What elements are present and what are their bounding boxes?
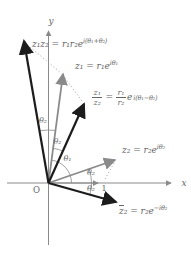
angle-theta2-mid-label: θ₂ <box>53 138 61 146</box>
z2-formula-exponent: iθ₂ <box>157 143 165 151</box>
z2-formula-base: z₂ = r₂e <box>122 145 157 155</box>
quotient-formula-label: z₁ z₂ = r₁ r₂ ei(θ₁−θ₂) <box>92 88 157 107</box>
quotient-e: e <box>127 93 132 102</box>
complex-plane-diagram: y x O 1 θ₂ θ₂ θ₁ θ₂ θ₂ z₁z₂ = r₁r₂ei(θ₁+… <box>0 0 191 261</box>
quotient-equals-sign: = <box>105 93 113 102</box>
unit-point-label: 1 <box>101 185 106 193</box>
dashed-line-z1-to-quotient <box>65 78 82 101</box>
z2-conjugate-base: ₂ = r₂e <box>124 206 154 216</box>
quotient-right-fraction: r₁ r₂ <box>116 88 126 107</box>
quotient-left-fraction: z₁ z₂ <box>92 88 102 107</box>
quotient-numerator-z1: z₁ <box>92 88 102 98</box>
quotient-denominator-r2: r₂ <box>117 98 124 107</box>
z2-formula-label: z₂ = r₂eiθ₂ <box>122 146 165 155</box>
product-formula-base: z₁z₂ = r₁r₂e <box>32 39 83 49</box>
origin-label: O <box>33 186 40 195</box>
angle-theta1-label: θ₁ <box>63 155 71 163</box>
z2-conjugate-formula-label: z₂ = r₂e−iθ₂ <box>119 205 167 216</box>
arc-theta2-top <box>40 130 57 131</box>
quotient-denominator-z2: z₂ <box>94 98 101 107</box>
product-formula-exponent: i(θ₁+θ₂) <box>83 37 107 45</box>
dashed-line-z2-to-unit <box>104 163 114 181</box>
z1-formula-label: z₁ = r₁eiθ₁ <box>75 62 118 71</box>
z2-conjugate-exponent: −iθ₂ <box>154 204 167 212</box>
dashed-line-product-to-z1 <box>30 47 61 73</box>
y-axis-label: y <box>48 17 53 26</box>
x-axis-label: x <box>181 179 186 188</box>
z1-formula-exponent: iθ₁ <box>110 59 118 67</box>
arc-theta2-mid <box>53 148 62 151</box>
quotient-numerator-r1: r₁ <box>116 88 126 98</box>
angle-theta2-top-label: θ₂ <box>39 117 47 125</box>
angle-theta2-above-axis-label: θ₂ <box>87 169 95 177</box>
vector-z1z2-product <box>24 41 49 183</box>
product-formula-label: z₁z₂ = r₁r₂ei(θ₁+θ₂) <box>32 40 107 49</box>
angle-theta2-below-axis-label: θ₂ <box>87 185 95 193</box>
z1-formula-base: z₁ = r₁e <box>75 61 110 71</box>
